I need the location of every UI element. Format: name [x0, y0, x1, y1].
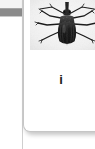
adjacent-panel-edge [0, 0, 23, 149]
screenshot-viewport: i [0, 0, 95, 149]
beetle-illustration-icon [30, 0, 95, 50]
adjacent-panel-band-shadow [0, 16, 22, 17]
specimen-card-body: i [24, 0, 95, 131]
beetle-specimen-photo[interactable] [30, 0, 95, 50]
specimen-card[interactable]: i [23, 0, 95, 132]
specimen-caption: i [30, 72, 92, 87]
adjacent-panel-top-fill [0, 0, 23, 8]
adjacent-panel-band-highlight [0, 8, 22, 9]
